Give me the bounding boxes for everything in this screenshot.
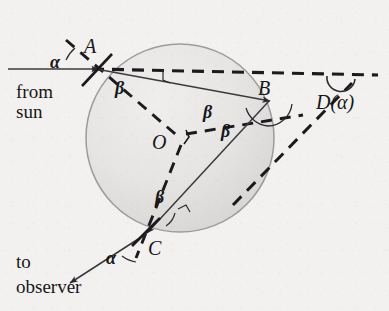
label-point-a: A [84,36,96,56]
label-beta-at-b-lower: β [221,122,230,140]
label-beta-at-a: β [115,79,124,97]
label-point-b: B [258,78,270,98]
label-deviation-d: D(α) [316,92,354,112]
label-beta-at-c: β [155,188,164,206]
angle-arc-alpha-at-c [122,256,136,262]
label-to-observer-line2: observer [16,277,81,296]
rainbow-geometry-svg [0,0,389,311]
label-center-o: O [152,132,166,152]
diagram-canvas: A B C O α β β β β α D(α) from sun to obs… [0,0,389,311]
label-from-sun-line1: from [16,82,53,101]
label-to-observer-line1: to [16,252,31,271]
label-alpha-at-c: α [106,249,116,267]
label-beta-at-b-upper: β [203,103,212,121]
angle-arc-alpha-at-a [66,48,75,60]
label-point-c: C [148,238,161,258]
label-alpha-at-a: α [50,53,60,71]
label-from-sun-line2: sun [16,102,42,121]
